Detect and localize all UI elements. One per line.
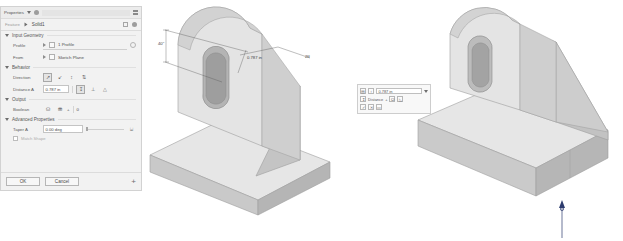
mini-distance-label: Distance <box>368 97 383 102</box>
direction-icon[interactable]: ↕ <box>368 88 374 94</box>
viewport-right[interactable] <box>0 0 623 241</box>
mini-toolbar-row-2: ↧ Distance + ⛁ ◺ <box>360 95 428 103</box>
chevron-down-icon[interactable] <box>424 90 428 93</box>
extrude-icon[interactable]: ▤ <box>360 88 366 94</box>
distance-mode-icon[interactable]: ↧ <box>360 96 366 102</box>
mini-distance-input[interactable]: 0.787 in <box>376 88 422 95</box>
close-icon[interactable]: ✕ <box>368 104 374 110</box>
mini-toolbar-row-3: ✓ ✕ ▭ <box>360 103 428 111</box>
extrude-mini-toolbar[interactable]: ▤ ↕ 0.787 in ↧ Distance + ⛁ ◺ ✓ ✕ ▭ <box>357 84 431 114</box>
check-icon[interactable]: ✓ <box>360 104 366 110</box>
taper-icon[interactable]: ◺ <box>397 96 403 102</box>
boolean-join-icon[interactable]: ⛁ <box>389 96 395 102</box>
mini-operator: + <box>385 97 387 102</box>
extrude-direction-arrow[interactable] <box>559 200 565 238</box>
more-icon[interactable]: ▭ <box>376 104 382 110</box>
mini-toolbar-row-1: ▤ ↕ 0.787 in <box>360 87 428 95</box>
